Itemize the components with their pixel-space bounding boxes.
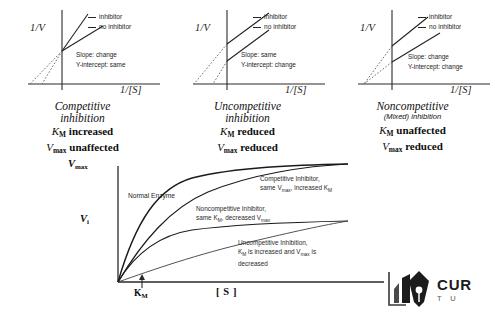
panel-noncompetitive: 1/V 1/[S] inhibitor no inhibitor Slope: … [330, 0, 495, 150]
annotation-line-3: decreased [238, 259, 316, 268]
noncompetitive-y-axis-label: 1/V [360, 22, 375, 33]
noncompetitive-km-effect: KM unaffected [330, 124, 495, 140]
legend-item-no-inhibitor: no inhibitor [418, 22, 461, 32]
main-plot-km-tick-label: KM [134, 288, 148, 299]
competitive-km-effect: KM increased [0, 125, 165, 141]
noncompetitive-inhibitor-annotation: Noncompetitive Inhibitor, same KM, decre… [196, 204, 270, 225]
uncompetitive-caption-name: Uncompetitive [165, 100, 330, 112]
uncompetitive-km-effect: KM reduced [165, 125, 330, 141]
noncompetitive-caption: Noncompetitive (Mixed) inhibition KM una… [330, 100, 495, 157]
brand-logo: CUR T U [386, 264, 495, 316]
uncompetitive-caption: Uncompetitive inhibition KM reduced Vmax… [165, 100, 330, 158]
competitive-note-slope: Slope: change [76, 50, 126, 60]
annotation-line-2: KM is increased and Vmax is [238, 247, 316, 259]
uncompetitive-y-axis-label: 1/V [195, 22, 210, 33]
panel-competitive: 1/V 1/[S] inhibitor no inhibitor Slope: … [0, 0, 165, 150]
noncompetitive-notes: Slope: change Y-intercept: change [408, 52, 463, 71]
legend-item-no-inhibitor: no inhibitor [253, 22, 296, 32]
noncompetitive-note-intercept: Y-intercept: change [408, 62, 463, 72]
annotation-line-1: Uncompetitive Inhibition, [238, 238, 316, 247]
legend-dash-icon [253, 17, 261, 18]
legend-item-no-inhibitor: no inhibitor [88, 22, 131, 32]
legend-item-inhibitor: inhibitor [418, 12, 461, 22]
panel-uncompetitive: 1/V 1/[S] inhibitor no inhibitor Slope: … [165, 0, 330, 150]
michaelis-menten-plot: Vmax Vi [ S ] KM Normal Enzyme Competiti… [96, 150, 386, 300]
logo-name-bottom: T U [437, 295, 472, 303]
noncompetitive-note-slope: Slope: change [408, 52, 463, 62]
uncompetitive-inhibitor-annotation: Uncompetitive Inhibition, KM is increase… [238, 238, 316, 268]
legend-label-no-inhibitor: no inhibitor [429, 22, 461, 32]
competitive-x-axis-label: 1/[S] [120, 84, 142, 95]
uncompetitive-x-axis-label: 1/[S] [285, 84, 307, 95]
legend-label-no-inhibitor: no inhibitor [264, 22, 296, 32]
logo-wordmark: CUR T U [437, 277, 472, 303]
uncompetitive-notes: Slope: same Y-intercept: change [241, 50, 296, 69]
uncompetitive-note-slope: Slope: same [241, 50, 296, 60]
uncompetitive-note-intercept: Y-intercept: change [241, 60, 296, 70]
competitive-inhibitor-annotation: Competitive Inhibitor, same Vmax, increa… [260, 174, 332, 195]
legend-dash-icon [253, 27, 261, 28]
noncompetitive-legend: inhibitor no inhibitor [418, 12, 461, 32]
competitive-note-intercept: Y-intercept: same [76, 60, 126, 70]
annotation-line-1: Competitive Inhibitor, [260, 174, 332, 183]
uncompetitive-legend: inhibitor no inhibitor [253, 12, 296, 32]
legend-label-no-inhibitor: no inhibitor [99, 22, 131, 32]
competitive-caption-name2: inhibition [0, 112, 165, 124]
legend-dash-icon [88, 17, 96, 18]
legend-dash-icon [88, 27, 96, 28]
legend-dash-icon [418, 17, 426, 18]
legend-label-inhibitor: inhibitor [264, 12, 287, 22]
logo-name-top: CUR [437, 277, 472, 292]
competitive-caption-name: Competitive [0, 100, 165, 112]
competitive-notes: Slope: change Y-intercept: same [76, 50, 126, 69]
uncompetitive-caption-name2: inhibition [165, 112, 330, 124]
annotation-line-2: same Vmax, increased KM [260, 183, 332, 195]
competitive-legend: inhibitor no inhibitor [88, 12, 131, 32]
legend-label-inhibitor: inhibitor [99, 12, 122, 22]
noncompetitive-caption-subtitle: (Mixed) inhibition [330, 111, 495, 123]
legend-item-inhibitor: inhibitor [88, 12, 131, 22]
competitive-caption: Competitive inhibition KM increased Vmax… [0, 100, 165, 158]
noncompetitive-x-axis-label: 1/[S] [450, 84, 472, 95]
bar-chart-pen-nib-icon [386, 269, 432, 311]
legend-item-inhibitor: inhibitor [253, 12, 296, 22]
main-plot-vi-label: Vi [80, 213, 89, 226]
legend-label-inhibitor: inhibitor [429, 12, 452, 22]
lineweaver-burk-panel-row: 1/V 1/[S] inhibitor no inhibitor Slope: … [0, 0, 495, 150]
competitive-y-axis-label: 1/V [30, 22, 45, 33]
main-plot-x-axis-label: [ S ] [216, 286, 237, 297]
annotation-line-2: same KM, decreased Vmax [196, 213, 270, 225]
normal-enzyme-curve-label: Normal Enzyme [128, 192, 175, 199]
legend-dash-icon [418, 27, 426, 28]
annotation-line-1: Noncompetitive Inhibitor, [196, 204, 270, 213]
main-plot-vmax-label: Vmax [68, 158, 88, 171]
